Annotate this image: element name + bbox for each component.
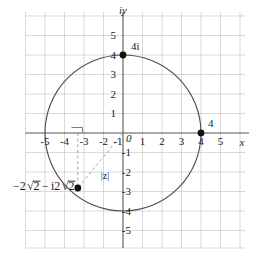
y-tick-3: 3 [111,68,117,80]
point-4i[interactable] [120,52,127,59]
x-tick--3: -3 [79,135,89,147]
svg-text:i2: i2 [51,179,60,193]
x-tick-3: 3 [179,135,185,147]
x-tick-labels: -5 -4 -3 -2 -1 1 2 3 4 5 [40,135,223,147]
x-tick-4: 4 [198,135,204,147]
x-tick-1: 1 [140,135,146,147]
point-label-4i: 4i [131,40,140,52]
svg-text:−2: −2 [13,179,26,193]
complex-plane-plot: -5 -4 -3 -2 -1 1 2 3 4 5 5 4 3 2 1 -1 -2… [0,0,265,260]
point-label-4: 4 [208,117,214,129]
y-tick--2: -2 [122,166,131,178]
modulus-label: |z| [101,170,109,181]
point-label-neg2sqrt2: −2 √ 2 − i2 √ 2 [13,179,76,193]
svg-text:2: 2 [69,179,75,193]
y-tick--1: -1 [122,146,131,158]
svg-text:2: 2 [34,179,40,193]
y-tick--4: -4 [122,205,132,217]
x-tick-2: 2 [159,135,165,147]
y-tick--5: -5 [122,224,132,236]
y-tick-2: 2 [111,88,117,100]
svg-text:−: − [42,179,49,193]
x-tick--4: -4 [60,135,70,147]
figure-container: -5 -4 -3 -2 -1 1 2 3 4 5 5 4 3 2 1 -1 -2… [0,0,265,260]
right-angle-marker [72,128,83,134]
point-neg2sqrt2[interactable] [74,185,81,192]
x-tick--5: -5 [40,135,50,147]
x-axis-label: x [239,136,245,148]
y-tick-1: 1 [111,107,117,119]
x-tick--2: -2 [99,135,108,147]
y-tick-4: 4 [111,49,117,61]
origin-label: 0 [126,132,132,144]
y-tick--3: -3 [122,185,132,197]
x-tick-5: 5 [218,135,224,147]
data-points [74,52,204,192]
y-axis-label: iy [119,4,127,16]
y-tick-5: 5 [111,29,117,41]
